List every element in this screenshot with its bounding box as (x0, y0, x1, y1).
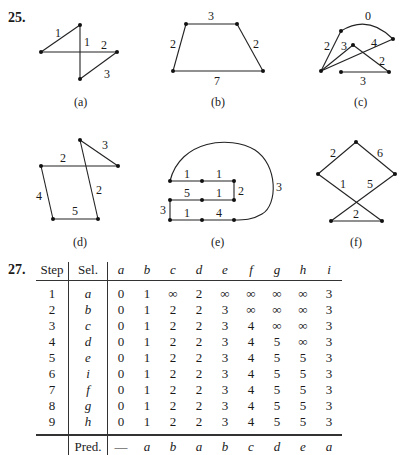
caption-c: (c) (354, 95, 367, 109)
distance-cell: ∞ (238, 281, 264, 303)
distance-cell: 5 (264, 398, 290, 414)
table-header-row: Step Sel. a b c d e f g h i (36, 262, 342, 281)
edge-label: 0 (365, 9, 371, 23)
distance-cell: 1 (134, 366, 160, 382)
table-row: 6i012234553 (36, 366, 342, 382)
edge-label: 1 (340, 177, 346, 191)
edge-label: 2 (330, 146, 336, 160)
distance-cell: 3 (212, 398, 238, 414)
distance-cell: ∞ (160, 281, 186, 303)
distance-cell: 2 (186, 366, 212, 382)
edge-label: 3 (102, 138, 108, 152)
table-body: 1a01∞2∞∞∞∞32b01223∞∞∞33c012234∞∞34d01223… (36, 281, 342, 436)
distance-cell: 1 (134, 281, 160, 303)
header-d: d (186, 262, 212, 281)
selected-vertex-cell: c (69, 318, 108, 334)
distance-cell: 3 (316, 281, 342, 303)
distance-cell: 5 (290, 398, 316, 414)
distance-cell: ∞ (290, 318, 316, 334)
distance-cell: 3 (316, 382, 342, 398)
distance-cell: 0 (108, 334, 135, 350)
distance-cell: 5 (264, 414, 290, 435)
distance-cell: 5 (264, 366, 290, 382)
edge-label: 7 (214, 74, 220, 88)
table-row: 7f012234553 (36, 382, 342, 398)
distance-cell: 0 (108, 350, 135, 366)
edge-label: 2 (253, 37, 259, 51)
edge-label: 4 (371, 36, 377, 50)
distance-cell: 0 (108, 366, 135, 382)
header-f: f (238, 262, 264, 281)
distance-cell: 3 (212, 414, 238, 435)
distance-cell: 5 (264, 334, 290, 350)
step-cell: 3 (36, 318, 69, 334)
pred-value: d (264, 435, 290, 455)
distance-cell: 1 (134, 318, 160, 334)
edge-label: 2 (324, 39, 330, 53)
step-cell: 8 (36, 398, 69, 414)
distance-cell: 3 (212, 334, 238, 350)
distance-cell: 3 (316, 334, 342, 350)
distance-cell: 0 (108, 382, 135, 398)
edge-label: 6 (377, 146, 383, 160)
graph-b (173, 24, 263, 71)
caption-e: (e) (211, 235, 224, 249)
step-cell: 4 (36, 334, 69, 350)
edge-label: 5 (184, 186, 190, 200)
selected-vertex-cell: a (69, 281, 108, 303)
distance-cell: ∞ (290, 302, 316, 318)
edge-label: 1 (184, 206, 190, 220)
pred-value: b (160, 435, 186, 455)
selected-vertex-cell: e (69, 350, 108, 366)
distance-cell: 4 (238, 350, 264, 366)
header-g: g (264, 262, 290, 281)
caption-b: (b) (211, 95, 225, 109)
pred-value: b (212, 435, 238, 455)
edge-label: 3 (341, 39, 347, 53)
table-row: 5e012234553 (36, 350, 342, 366)
distance-cell: 2 (160, 302, 186, 318)
distance-cell: 3 (316, 318, 342, 334)
table-row: 1a01∞2∞∞∞∞3 (36, 281, 342, 303)
selected-vertex-cell: g (69, 398, 108, 414)
distance-cell: 0 (108, 302, 135, 318)
distance-cell: 0 (108, 398, 135, 414)
pred-value: a (186, 435, 212, 455)
distance-cell: 1 (134, 414, 160, 435)
distance-cell: 2 (160, 414, 186, 435)
distance-cell: 1 (134, 382, 160, 398)
distance-cell: 4 (238, 318, 264, 334)
header-sel: Sel. (69, 262, 108, 281)
caption-d: (d) (73, 235, 87, 249)
distance-cell: 4 (238, 366, 264, 382)
pred-value: e (290, 435, 316, 455)
distance-cell: 5 (264, 350, 290, 366)
distance-cell: ∞ (264, 281, 290, 303)
distance-cell: 2 (186, 350, 212, 366)
distance-cell: ∞ (238, 302, 264, 318)
distance-cell: 3 (316, 350, 342, 366)
distance-cell: 2 (186, 334, 212, 350)
distance-cell: 2 (160, 350, 186, 366)
edge-label: 2 (96, 183, 102, 197)
distance-cell: 3 (212, 366, 238, 382)
distance-cell: 2 (160, 366, 186, 382)
edge-label: 3 (276, 180, 282, 194)
header-c: c (160, 262, 186, 281)
header-i: i (316, 262, 342, 281)
distance-cell: 0 (108, 318, 135, 334)
edge-label: 2 (238, 184, 244, 198)
distance-cell: 3 (316, 302, 342, 318)
header-e: e (212, 262, 238, 281)
graph-figures: 1 1 2 3 (a) 3 2 2 7 (b) 0 2 3 4 2 3 (c) … (0, 0, 401, 260)
distance-cell: 3 (212, 302, 238, 318)
edge-label: 1 (55, 26, 61, 40)
distance-cell: 5 (290, 350, 316, 366)
edge-label: 3 (160, 203, 166, 217)
distance-cell: 1 (134, 350, 160, 366)
distance-cell: 2 (186, 281, 212, 303)
pred-value: c (238, 435, 264, 455)
edge-label: 3 (104, 67, 110, 81)
step-cell: 5 (36, 350, 69, 366)
distance-cell: 4 (238, 334, 264, 350)
